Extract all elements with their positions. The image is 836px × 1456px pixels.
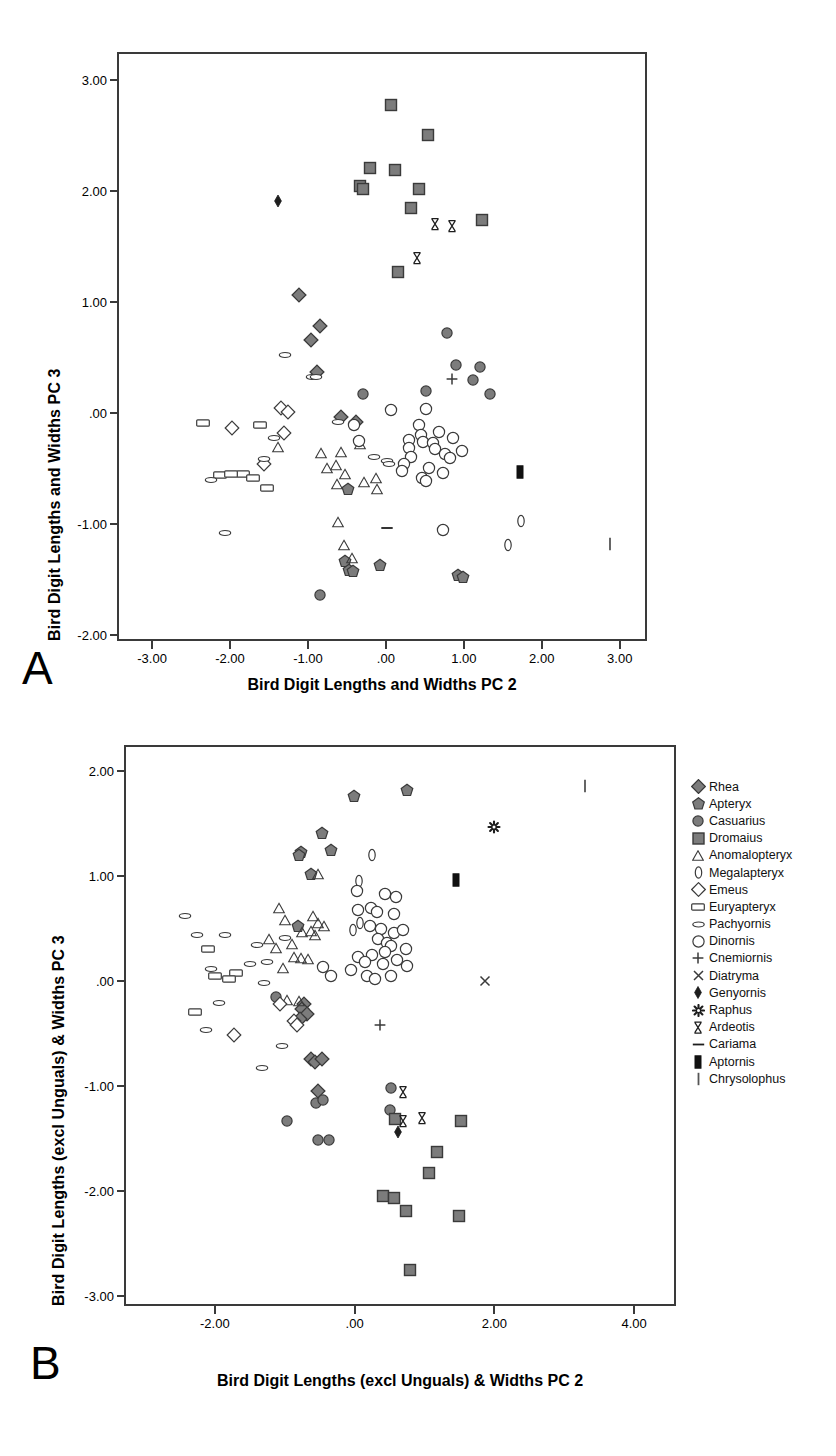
panel-b-x-tick-label: .00 [346,1316,364,1331]
panel-b-x-tick-mark [354,1306,356,1314]
panel-b-y-tick-label: -1.00 [66,1078,114,1093]
panel-a-letter: A [22,645,53,691]
panel-b-x-tick-mark [493,1306,495,1314]
legend-item-label: Anomalopteryx [709,848,792,862]
open-diamond-icon [688,881,708,898]
panel-a-x-tick-label: .00 [377,651,395,666]
legend-item-label: Cnemiornis [709,951,772,965]
legend-item-euryapteryx[interactable]: Euryapteryx [688,898,792,915]
legend-item-label: Rhea [709,780,739,794]
panel-a-y-tick-label: 3.00 [59,72,107,87]
panel-a-y-tick-mark [110,79,118,81]
legend-item-label: Chrysolophus [709,1072,785,1086]
panel-a-x-tick-mark [151,641,153,649]
panel-a-y-tick-mark [110,523,118,525]
panel-b-x-tick-label: 4.00 [621,1316,646,1331]
open-triangle-icon [688,847,708,864]
legend-item-label: Apteryx [709,797,751,811]
panel-a-y-tick-label: -2.00 [59,628,107,643]
filled-diamond-icon [688,778,708,795]
panel-b-y-tick-label: -2.00 [66,1183,114,1198]
panel-a-y-tick-label: 2.00 [59,183,107,198]
panel-a-x-tick-label: -2.00 [215,651,245,666]
open-rectangle-icon [688,898,708,915]
legend-item-emeus[interactable]: Emeus [688,881,792,898]
vertical-bar-icon [688,1070,708,1087]
panel-b-y-tick-label: 1.00 [66,869,114,884]
legend-item-chrysolophus[interactable]: Chrysolophus [688,1070,792,1087]
hourglass-icon [688,1019,708,1036]
plus-icon [688,950,708,967]
legend-item-cariama[interactable]: Cariama [688,1036,792,1053]
panel-b-y-tick-label: -3.00 [66,1288,114,1303]
filled-pentagon-icon [688,795,708,812]
legend-item-label: Pachyornis [709,917,771,931]
legend-item-rhea[interactable]: Rhea [688,778,792,795]
legend-item-label: Megalapteryx [709,866,784,880]
legend-item-label: Euryapteryx [709,900,776,914]
panel-a-x-tick-mark [619,641,621,649]
legend-item-label: Aptornis [709,1055,755,1069]
legend-item-pachyornis[interactable]: Pachyornis [688,916,792,933]
legend-item-label: Dinornis [709,934,755,948]
legend-item-megalapteryx[interactable]: Megalapteryx [688,864,792,881]
open-ellipse-icon [688,916,708,933]
panel-a-x-tick-mark [463,641,465,649]
panel-a-x-tick-label: -3.00 [137,651,167,666]
panel-a-y-tick-mark [110,412,118,414]
taxa-legend: RheaApteryxCasuariusDromaiusAnomaloptery… [688,778,792,1087]
legend-item-ardeotis[interactable]: Ardeotis [688,1019,792,1036]
panel-a-y-tick-mark [110,634,118,636]
panel-b-x-tick-mark [633,1306,635,1314]
dash-icon [688,1036,708,1053]
legend-item-apteryx[interactable]: Apteryx [688,795,792,812]
panel-a-y-tick-label: -1.00 [59,517,107,532]
legend-item-raphus[interactable]: Raphus [688,1001,792,1018]
panel-b-y-axis-title: Bird Digit Lengths (excl Unguals) & Widt… [50,935,68,1306]
panel-a-x-tick-label: 3.00 [607,651,632,666]
panel-a-x-tick-label: 2.00 [529,651,554,666]
legend-item-aptornis[interactable]: Aptornis [688,1053,792,1070]
legend-item-genyornis[interactable]: Genyornis [688,984,792,1001]
panel-b-y-tick-label: 2.00 [66,764,114,779]
filled-circle-icon [688,812,708,829]
panel-a-x-tick-mark [541,641,543,649]
panel-b-x-tick-label: 2.00 [482,1316,507,1331]
zero-glyph-icon [688,864,708,881]
panel-a-plot-frame [117,52,647,641]
panel-b-y-tick-mark [117,1085,125,1087]
legend-item-label: Diatryma [709,969,759,983]
panel-b-x-axis-title: Bird Digit Lengths (excl Unguals) & Widt… [124,1372,676,1390]
panel-b-y-tick-mark [117,1295,125,1297]
panel-b-y-tick-mark [117,1190,125,1192]
asterisk-flower-icon [688,1002,708,1019]
panel-b-y-tick-label: .00 [66,973,114,988]
panel-b-x-tick-mark [214,1306,216,1314]
legend-item-label: Cariama [709,1037,756,1051]
panel-b-letter: B [30,1340,61,1386]
legend-item-label: Raphus [709,1003,752,1017]
legend-item-label: Casuarius [709,814,765,828]
panel-a-y-tick-label: 1.00 [59,295,107,310]
legend-item-dinornis[interactable]: Dinornis [688,933,792,950]
legend-item-dromaius[interactable]: Dromaius [688,830,792,847]
cross-icon [688,967,708,984]
panel-a-y-tick-mark [110,190,118,192]
panel-b-x-tick-label: -2.00 [200,1316,230,1331]
legend-item-diatryma[interactable]: Diatryma [688,967,792,984]
panel-a-x-axis-title: Bird Digit Lengths and Widths PC 2 [117,676,647,694]
legend-item-label: Emeus [709,883,748,897]
panel-a-y-tick-mark [110,301,118,303]
legend-item-cnemiornis[interactable]: Cnemiornis [688,950,792,967]
panel-a-x-tick-label: -1.00 [293,651,323,666]
small-filled-diamond-icon [688,984,708,1001]
legend-item-anomalopteryx[interactable]: Anomalopteryx [688,847,792,864]
legend-item-label: Genyornis [709,986,766,1000]
panel-a-x-tick-label: 1.00 [451,651,476,666]
panel-b-plot-frame [124,745,676,1306]
panel-a-x-tick-mark [307,641,309,649]
filled-square-icon [688,830,708,847]
filled-bar-icon [688,1053,708,1070]
legend-item-label: Ardeotis [709,1020,755,1034]
legend-item-casuarius[interactable]: Casuarius [688,812,792,829]
